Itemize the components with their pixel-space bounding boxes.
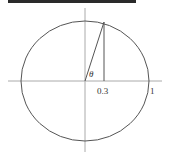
unit-circle-diagram: θ 0.3 1	[0, 0, 173, 158]
radius-label: 1	[150, 86, 155, 96]
radius-line	[85, 22, 104, 81]
x-value-label: 0.3	[97, 86, 109, 96]
angle-label: θ	[89, 69, 94, 79]
